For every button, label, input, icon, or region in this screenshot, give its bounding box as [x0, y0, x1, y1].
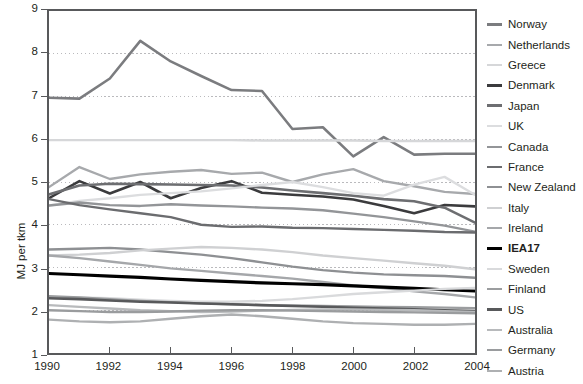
series-line: [49, 167, 475, 194]
legend-label: Japan: [508, 100, 539, 112]
legend-label: France: [508, 161, 544, 173]
legend-label: New Zealand: [508, 181, 576, 193]
y-tick-mark: [41, 355, 47, 356]
legend-label: Sweden: [508, 263, 550, 275]
legend-item[interactable]: New Zealand: [487, 177, 583, 197]
series-line: [49, 315, 475, 325]
legend-item[interactable]: Japan: [487, 96, 583, 116]
y-tick-label: 9: [32, 3, 38, 15]
legend-swatch: [487, 288, 502, 290]
legend-swatch: [487, 166, 502, 168]
legend-item[interactable]: Denmark: [487, 75, 583, 95]
legend-swatch: [487, 349, 502, 351]
series-line: [49, 184, 475, 223]
legend-swatch: [487, 146, 502, 148]
y-tick-label: 3: [32, 263, 38, 275]
legend-swatch: [487, 308, 502, 311]
legend-swatch: [487, 23, 502, 26]
legend-swatch: [487, 268, 502, 270]
y-axis: 987654321: [0, 0, 47, 364]
legend-item[interactable]: Germany: [487, 340, 583, 360]
legend-label: Australia: [508, 324, 553, 336]
legend: NorwayNetherlandsGreeceDenmarkJapanUKCan…: [487, 14, 583, 381]
legend-item[interactable]: Canada: [487, 136, 583, 156]
legend-label: Denmark: [508, 79, 555, 91]
legend-item[interactable]: Sweden: [487, 259, 583, 279]
x-tick-label: 2000: [331, 360, 377, 372]
y-tick-label: 5: [32, 176, 38, 188]
legend-swatch: [487, 44, 502, 46]
y-tick-label: 2: [32, 306, 38, 318]
legend-item[interactable]: France: [487, 157, 583, 177]
legend-label: Finland: [508, 283, 546, 295]
legend-swatch: [487, 370, 502, 372]
legend-item[interactable]: Greece: [487, 55, 583, 75]
legend-item[interactable]: Italy: [487, 198, 583, 218]
x-tick-label: 1992: [85, 360, 131, 372]
legend-swatch: [487, 329, 502, 331]
legend-item[interactable]: US: [487, 299, 583, 319]
legend-label: Germany: [508, 344, 555, 356]
legend-item[interactable]: UK: [487, 116, 583, 136]
legend-label: IEA17: [508, 242, 540, 254]
y-tick-label: 7: [32, 90, 38, 102]
x-tick-label: 1996: [208, 360, 254, 372]
legend-swatch: [487, 104, 502, 107]
x-tick-label: 2002: [393, 360, 439, 372]
legend-label: Netherlands: [508, 39, 570, 51]
series-line: [49, 247, 475, 269]
legend-swatch: [487, 125, 502, 127]
legend-item[interactable]: Austria: [487, 361, 583, 381]
y-tick-label: 4: [32, 219, 38, 231]
legend-label: US: [508, 304, 524, 316]
legend-label: Greece: [508, 59, 546, 71]
legend-label: Austria: [508, 365, 544, 377]
x-tick-label: 1994: [147, 360, 193, 372]
y-axis-title: MJ per tkm: [15, 206, 27, 296]
x-tick-label: 1990: [24, 360, 70, 372]
y-tick-label: 1: [32, 349, 38, 361]
chart-root: 987654321 MJ per tkm 1990199219941996199…: [0, 0, 583, 384]
legend-item[interactable]: Ireland: [487, 218, 583, 238]
y-tick-label: 6: [32, 133, 38, 145]
series-lines: [49, 11, 475, 353]
plot-area: [47, 9, 477, 355]
legend-swatch: [487, 84, 502, 87]
legend-swatch: [487, 247, 502, 250]
legend-swatch: [487, 207, 502, 209]
legend-swatch: [487, 227, 502, 229]
legend-item[interactable]: Netherlands: [487, 34, 583, 54]
chart-title: [150, 0, 410, 7]
legend-label: Ireland: [508, 222, 543, 234]
legend-item[interactable]: IEA17: [487, 238, 583, 258]
legend-label: Norway: [508, 18, 547, 30]
legend-item[interactable]: Norway: [487, 14, 583, 34]
legend-label: Canada: [508, 141, 548, 153]
x-tick-label: 1998: [270, 360, 316, 372]
y-tick-label: 8: [32, 46, 38, 58]
legend-label: UK: [508, 120, 524, 132]
legend-item[interactable]: Australia: [487, 320, 583, 340]
series-line: [49, 140, 475, 141]
legend-item[interactable]: Finland: [487, 279, 583, 299]
legend-label: Italy: [508, 202, 529, 214]
legend-swatch: [487, 64, 502, 66]
legend-swatch: [487, 186, 502, 188]
